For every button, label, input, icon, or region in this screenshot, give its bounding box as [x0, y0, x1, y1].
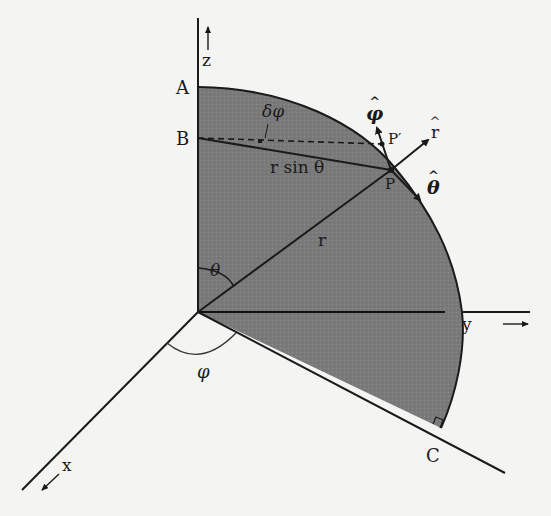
unit-theta-label: θ: [427, 178, 440, 197]
point-c-label: C: [426, 447, 440, 465]
shaded-sector: [198, 87, 463, 428]
point-a-label: A: [176, 79, 189, 97]
phi-angle-arc: [167, 333, 236, 354]
point-p-label: P: [385, 177, 395, 192]
z-axis-label: z: [202, 52, 211, 69]
point-b-label: B: [176, 130, 189, 148]
spherical-coordinates-figure: z A B δφ r sin θ P P′ r θ φ r θ φ y C x: [0, 0, 551, 516]
y-axis-label: y: [462, 316, 472, 333]
x-direction-arrow: [42, 474, 59, 490]
r-hat-symbol: r: [431, 124, 439, 141]
radius-label: r: [318, 232, 326, 249]
unit-r-label: r: [431, 124, 439, 141]
phi-angle-label: φ: [197, 363, 210, 381]
theta-angle-label: θ: [210, 262, 220, 279]
unit-phi-label: φ: [366, 104, 383, 123]
diagram-canvas: [0, 0, 551, 516]
delta-phi-marker: [258, 139, 262, 143]
theta-hat-symbol: θ: [427, 178, 440, 197]
point-p-prime-label: P′: [388, 132, 402, 147]
x-axis-label: x: [62, 457, 72, 474]
delta-phi-label: δφ: [262, 103, 284, 120]
x-axis-line: [22, 312, 198, 490]
r-sin-theta-label: r sin θ: [270, 159, 324, 176]
phi-hat-symbol: φ: [366, 104, 383, 123]
